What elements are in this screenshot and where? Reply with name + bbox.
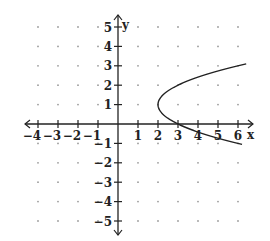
grid-dot	[237, 46, 239, 48]
y-tick-label: 2	[104, 79, 112, 93]
grid-dot	[217, 104, 219, 106]
grid-dot	[137, 65, 139, 67]
grid-dot	[77, 162, 79, 164]
grid-dot	[37, 46, 39, 48]
grid-dot	[137, 46, 139, 48]
y-tick-label: 4	[104, 40, 112, 54]
grid-dot	[97, 26, 99, 28]
grid-dot	[97, 84, 99, 86]
grid-dot	[57, 104, 59, 106]
grid-dot	[157, 46, 159, 48]
grid-dot	[237, 201, 239, 203]
grid-dot	[37, 65, 39, 67]
grid-dot	[217, 201, 219, 203]
y-tick-label: −5	[94, 215, 112, 229]
grid-dot	[157, 26, 159, 28]
grid-dot	[37, 26, 39, 28]
x-tick-label: 6	[234, 129, 242, 143]
x-tick-label: 5	[214, 129, 222, 143]
grid-dot	[157, 84, 159, 86]
grid-dot	[137, 201, 139, 203]
grid-dot	[37, 84, 39, 86]
grid-dot	[37, 162, 39, 164]
grid-dot	[237, 104, 239, 106]
grid-dot	[177, 162, 179, 164]
grid-dot	[217, 84, 219, 86]
grid-dot	[137, 26, 139, 28]
grid-dot	[217, 162, 219, 164]
grid-dot	[37, 201, 39, 203]
grid-dot	[57, 26, 59, 28]
grid-dot	[237, 162, 239, 164]
x-axis-label: x	[247, 128, 255, 142]
y-tick-label: 3	[104, 59, 112, 73]
grid-dot	[57, 46, 59, 48]
grid-dot	[37, 181, 39, 183]
grid-dot	[177, 220, 179, 222]
grid-dot	[177, 65, 179, 67]
x-tick-label: −4	[23, 129, 41, 143]
x-tick-label: 2	[154, 129, 162, 143]
grid-dot	[77, 46, 79, 48]
grid-dot	[57, 181, 59, 183]
grid-dot	[177, 181, 179, 183]
grid-dot	[217, 220, 219, 222]
grid-dot	[137, 162, 139, 164]
grid-dot	[197, 104, 199, 106]
y-tick-label: 1	[104, 98, 112, 112]
y-tick-label: −2	[94, 156, 112, 170]
grid-dot	[197, 26, 199, 28]
grid-dot	[177, 201, 179, 203]
grid-dot	[77, 65, 79, 67]
grid-dot	[177, 104, 179, 106]
grid-dot	[177, 46, 179, 48]
y-tick-label: −3	[94, 176, 112, 190]
grid-dot	[57, 201, 59, 203]
grid-dot	[237, 181, 239, 183]
grid-dot	[137, 84, 139, 86]
grid-dot	[137, 104, 139, 106]
grid-dot	[37, 104, 39, 106]
grid-dot	[237, 220, 239, 222]
grid-dot	[77, 181, 79, 183]
grid-dot	[197, 65, 199, 67]
grid-dot	[197, 220, 199, 222]
grid-dot	[217, 26, 219, 28]
grid-dot	[77, 201, 79, 203]
grid-dot	[217, 46, 219, 48]
grid-dot	[197, 181, 199, 183]
grid-dot	[137, 220, 139, 222]
grid-dot	[57, 220, 59, 222]
grid-dot	[197, 84, 199, 86]
grid-dot	[97, 65, 99, 67]
grid-dot	[157, 201, 159, 203]
grid-dot	[197, 46, 199, 48]
grid-dot	[77, 104, 79, 106]
grid-dot	[137, 181, 139, 183]
grid-dot	[217, 181, 219, 183]
grid-dot	[77, 26, 79, 28]
grid-dot	[237, 26, 239, 28]
grid-dot	[57, 162, 59, 164]
grid-dot	[177, 26, 179, 28]
grid-dot	[97, 46, 99, 48]
x-tick-label: 1	[134, 129, 142, 143]
y-tick-label: 5	[104, 21, 112, 35]
y-axis-label: y	[121, 18, 130, 32]
x-tick-label: −3	[43, 129, 61, 143]
coordinate-plane: −4−3−2−1123456−5−4−3−2−112345 x y	[0, 0, 270, 241]
grid-dot	[217, 65, 219, 67]
grid-dot	[197, 162, 199, 164]
y-tick-label: −1	[94, 137, 112, 151]
grid-dot	[57, 65, 59, 67]
grid-dot	[197, 201, 199, 203]
grid-dot	[77, 84, 79, 86]
grid-dot	[77, 220, 79, 222]
grid-dot	[57, 84, 59, 86]
grid-dot	[157, 220, 159, 222]
grid-dot	[157, 162, 159, 164]
x-tick-label: 3	[174, 129, 182, 143]
grid-dot	[237, 84, 239, 86]
grid-dot	[97, 104, 99, 106]
y-tick-label: −4	[94, 195, 112, 209]
